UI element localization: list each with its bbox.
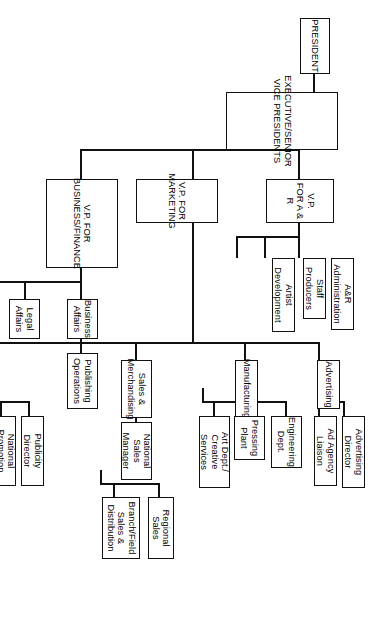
- node-manufacturing[interactable]: Manufacturing: [235, 360, 258, 417]
- node-art-dept-creative-services[interactable]: Art Dept./ Creative Services: [199, 416, 230, 488]
- connector-sales-childbar: [100, 483, 160, 485]
- connector-marketing-manufacturing: [244, 342, 246, 360]
- connector-vpar-out: [298, 223, 300, 237]
- node-advertising-director[interactable]: Advertising Director: [342, 416, 365, 488]
- connector-promotion-publicitydir: [28, 401, 30, 416]
- node-sales-merchandising[interactable]: Sales & Merchandising: [121, 360, 152, 418]
- connector-promotion-natlpromo: [0, 401, 2, 416]
- node-publishing-operations[interactable]: Publishing Operations: [67, 353, 98, 409]
- node-advertising[interactable]: Advertising: [317, 360, 340, 409]
- node-pressing-plant[interactable]: Pressing Plant: [234, 416, 265, 460]
- connector-ar-admin: [298, 236, 300, 258]
- connector-vpmarketing-out: [192, 223, 194, 343]
- node-branch-field-sales-distribution[interactable]: Branch/Field Sales & Distribution: [102, 497, 140, 559]
- node-ar-administration[interactable]: A&R Administration: [331, 258, 354, 330]
- org-chart: PRESIDENT EXECUTIVE/SENIOR VICE PRESIDEN…: [0, 0, 390, 619]
- node-engineering-dept[interactable]: Engineering Dept.: [271, 416, 302, 468]
- node-national-sales-manager[interactable]: National Sales Manager: [121, 422, 152, 480]
- connector-marketing-salesmerch: [135, 342, 137, 360]
- connector-vpbusiness-out: [80, 268, 82, 282]
- connector-manufacturing-engineering: [285, 401, 287, 416]
- node-legal-affairs[interactable]: Legal Affairs: [9, 299, 40, 339]
- node-vp-for-business-finance[interactable]: V.P. FOR BUSINESS/FINANCE: [46, 179, 118, 268]
- connector-trunk-vpbusiness: [80, 149, 82, 179]
- node-president[interactable]: PRESIDENT: [300, 18, 330, 74]
- connector-business-legal: [24, 281, 26, 299]
- connector-vpar-lead: [298, 149, 300, 179]
- node-publicity-director[interactable]: Publicity Director: [21, 416, 44, 486]
- connector-ar-staffproducers: [264, 236, 266, 258]
- connector-business-businessaffairs: [80, 281, 82, 299]
- node-national-promotion-director[interactable]: National Promotion Director: [0, 416, 16, 486]
- connector-business-bar: [0, 281, 82, 283]
- node-staff-producers[interactable]: Staff Producers: [303, 258, 326, 319]
- node-business-affairs[interactable]: Business Affairs: [67, 299, 98, 339]
- node-executive-senior-vice-presidents[interactable]: EXECUTIVE/SENIOR VICE PRESIDENTS: [226, 92, 338, 150]
- node-vp-for-marketing[interactable]: V.P. FOR MARKETING: [136, 179, 218, 223]
- node-ad-agency-liaison[interactable]: Ad Agency Liaison: [314, 416, 337, 486]
- connector-sales-regional: [158, 483, 160, 497]
- connector-businessaffairs-publishing: [80, 339, 82, 353]
- connector-manufacturing-artdept: [213, 401, 215, 416]
- connector-sales-branchfield: [113, 483, 115, 497]
- connector-manufacturing-out: [202, 388, 204, 402]
- connector-marketing-advertising: [318, 342, 320, 360]
- connector-ar-childbar: [238, 236, 300, 238]
- node-vp-for-ar[interactable]: V.P. FOR A & R: [266, 179, 334, 223]
- connector-trunk-vpmarketing: [192, 149, 194, 179]
- connector-marketing-spine: [0, 342, 320, 344]
- connector-ar-artistdev: [236, 236, 238, 258]
- connector-president-execsvp: [313, 74, 315, 92]
- connector-promotion-bar: [0, 401, 30, 403]
- node-artist-development[interactable]: Artist Development: [272, 258, 295, 332]
- node-regional-sales[interactable]: Regional Sales: [148, 497, 174, 559]
- connector-natlsalesmgr-out: [100, 470, 102, 484]
- connector-advertising-director: [343, 401, 345, 416]
